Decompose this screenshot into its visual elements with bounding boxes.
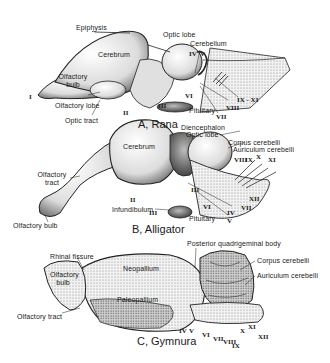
nerve-label: XI xyxy=(248,323,256,331)
label-cerebrum: Cerebrum xyxy=(98,51,130,59)
brain-comparison-diagram: Epiphysis Cerebrum Optic lobe Cerebellum… xyxy=(0,0,330,363)
label-olfactory-lobe: Olfactory lobe xyxy=(55,102,100,110)
label-auriculum-cerebelli: Auriculum cerebelli xyxy=(257,272,318,280)
label-neopallium: Neopallium xyxy=(123,265,159,273)
caption-rana: A, Rana xyxy=(138,118,178,130)
nerve-label: II xyxy=(130,196,135,204)
nerve-label: VII xyxy=(241,204,252,212)
label-olfactory-tract: Olfactory tract xyxy=(34,171,70,187)
nerve-label: VII xyxy=(216,113,227,121)
label-olfactory-bulb: Olfactory bulb xyxy=(50,271,76,287)
nerve-label: IX xyxy=(232,342,240,350)
nerve-label: VI xyxy=(185,92,193,100)
label-cerebrum: Cerebrum xyxy=(123,143,155,151)
nerve-label: IX - XI xyxy=(237,96,258,104)
nerve-label: III xyxy=(158,102,166,110)
label-pituitary: Pituitary xyxy=(189,215,215,223)
nerve-label: X xyxy=(240,327,245,335)
label-auriculum-cerebelli: Auriculum cerebelli xyxy=(233,146,294,154)
nerve-label: V xyxy=(200,50,205,58)
nerve-label: II xyxy=(123,109,128,117)
caption-alligator: B, Alligator xyxy=(132,223,185,235)
label-epiphysis: Epiphysis xyxy=(76,24,107,32)
nerve-label: VI xyxy=(202,331,210,339)
nerve-label: V xyxy=(189,327,194,335)
nerve-label: XII xyxy=(249,195,260,203)
label-olfactory-tract: Olfactory tract xyxy=(17,313,62,321)
nerve-label: IV xyxy=(189,50,197,58)
nerve-label: VII xyxy=(213,335,224,343)
label-rhinal-fissure: Rhinal fissure xyxy=(50,253,94,261)
label-cerebellum: Cerebellum xyxy=(190,40,227,48)
nerve-label: IV xyxy=(227,209,235,217)
label-infundibulum: Infundibulum xyxy=(112,206,153,214)
nerve-label: X xyxy=(256,153,261,161)
label-olfactory-bulb: Olfactory bulb xyxy=(13,222,58,230)
label-corpus-cerebelli: Corpus cerebelli xyxy=(257,257,309,265)
label-pituitary: Pituitary xyxy=(189,107,215,115)
label-optic-tract: Optic tract xyxy=(65,117,98,125)
label-optic-lobe: Optic lobe xyxy=(163,31,196,39)
nerve-label: III xyxy=(191,186,199,194)
label-paleopallium: Paleopallium xyxy=(117,296,158,304)
nerve-label: IX xyxy=(245,156,253,164)
caption-gymnura: C, Gymnura xyxy=(137,335,196,347)
nerve-label: VIII xyxy=(226,104,239,112)
nerve-label: III xyxy=(149,209,157,217)
nerve-label: V xyxy=(227,217,232,225)
nerve-label: IV xyxy=(179,327,187,335)
nerve-label: I xyxy=(29,93,32,101)
label-optic-lobe: Optic lobe xyxy=(186,131,219,139)
nerve-label: XII xyxy=(258,333,269,341)
nerve-label: VI xyxy=(203,203,211,211)
label-olfactory-bulb: Olfactory bulb xyxy=(58,73,88,89)
label-posterior-quadrigeminal-body: Posterior quadrigeminal body xyxy=(187,240,281,248)
nerve-label: XI xyxy=(268,156,276,164)
